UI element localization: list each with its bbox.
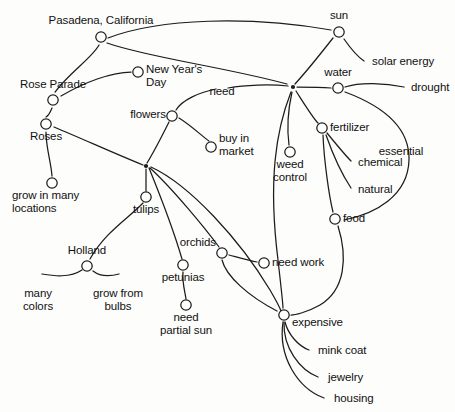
edge-water-to-hub-right xyxy=(297,87,331,88)
edge-orchids-to-expensive xyxy=(222,260,277,311)
node-marker-holland[interactable] xyxy=(82,261,92,271)
edge-orchids-to-needwork xyxy=(229,255,257,262)
edge-roses-to-hub-left xyxy=(54,127,143,165)
node-label-orchids[interactable]: orchids xyxy=(180,236,216,249)
node-marker-weedcontrol[interactable] xyxy=(285,147,295,157)
node-label-buymarket[interactable]: buy in market xyxy=(219,132,254,157)
node-marker-needwork[interactable] xyxy=(259,258,269,268)
node-label-chemical[interactable]: chemical xyxy=(358,156,403,169)
node-label-flowers[interactable]: flowers xyxy=(130,108,166,121)
edge-flowers-to-hub-left xyxy=(147,122,169,163)
edge-holland-to-growbulbs xyxy=(93,271,119,276)
node-label-tulips[interactable]: tulips xyxy=(133,203,159,216)
node-marker-flowers[interactable] xyxy=(167,111,177,121)
node-label-jewelry[interactable]: jewelry xyxy=(328,371,363,384)
node-marker-tulips[interactable] xyxy=(141,192,151,202)
node-label-roseparade[interactable]: Rose Parade xyxy=(20,78,86,91)
node-marker-roseparade[interactable] xyxy=(48,95,58,105)
edge-expensive-to-jewelry xyxy=(284,322,318,377)
node-label-expensive[interactable]: expensive xyxy=(292,316,343,329)
concept-map-canvas: Pasadena, Californiasunsolar energyNew Y… xyxy=(0,0,455,412)
node-marker-pasadena[interactable] xyxy=(96,32,106,42)
node-label-manycolors[interactable]: many colors xyxy=(23,287,53,312)
node-label-growmany[interactable]: grow in many locations xyxy=(12,189,79,214)
node-label-petunias[interactable]: petunias xyxy=(162,271,205,284)
node-label-natural[interactable]: natural xyxy=(358,183,392,196)
edge-food-to-expensive xyxy=(291,226,343,315)
node-label-growbulbs[interactable]: grow from bulbs xyxy=(93,287,143,312)
edge-fertilizer-to-natural xyxy=(326,135,351,188)
node-label-needwork[interactable]: need work xyxy=(272,256,324,269)
node-label-sun[interactable]: sun xyxy=(330,9,348,22)
node-marker-orchids[interactable] xyxy=(217,248,227,258)
node-label-drought[interactable]: drought xyxy=(411,81,449,94)
node-label-housing[interactable]: housing xyxy=(334,392,374,405)
edge-flowers-to-buymarket xyxy=(179,118,209,141)
node-marker-expensive[interactable] xyxy=(279,310,289,320)
node-label-water[interactable]: water xyxy=(324,66,352,79)
edge-hub-right-to-need xyxy=(228,85,288,88)
node-label-need[interactable]: need xyxy=(209,85,234,98)
node-label-solar[interactable]: solar energy xyxy=(372,55,434,68)
edge-sun-to-solar xyxy=(344,39,364,61)
node-marker-sun[interactable] xyxy=(334,27,344,37)
node-marker-petunias[interactable] xyxy=(178,260,188,270)
edge-holland-to-manycolors xyxy=(42,270,82,276)
edge-expensive-to-housing xyxy=(282,322,324,398)
node-marker-buymarket[interactable] xyxy=(206,142,216,152)
node-label-fertilizer[interactable]: fertilizer xyxy=(330,121,369,134)
node-label-roses[interactable]: Roses xyxy=(30,130,62,143)
edge-roseparade-to-roses xyxy=(46,108,52,117)
junction-hub-right xyxy=(291,85,295,89)
node-label-pasadena[interactable]: Pasadena, California xyxy=(49,14,154,27)
node-label-needsun[interactable]: need partial sun xyxy=(160,311,212,336)
node-marker-needsun[interactable] xyxy=(181,300,191,310)
edge-fertilizer-to-food xyxy=(323,135,333,212)
node-marker-newyear[interactable] xyxy=(133,67,143,77)
node-label-holland[interactable]: Holland xyxy=(68,244,106,257)
edge-water-to-drought xyxy=(345,84,404,87)
node-label-newyear[interactable]: New Year's Day xyxy=(146,63,202,88)
node-label-food[interactable]: food xyxy=(343,212,365,225)
node-label-minkcoat[interactable]: mink coat xyxy=(318,344,366,357)
node-label-weedcontrol[interactable]: weed control xyxy=(273,158,307,183)
node-marker-roses[interactable] xyxy=(41,119,51,129)
edge-hub-right-to-fertilizer xyxy=(296,91,318,123)
edge-group xyxy=(42,21,409,398)
node-marker-fertilizer[interactable] xyxy=(317,123,327,133)
node-marker-water[interactable] xyxy=(333,83,343,93)
node-marker-growmany[interactable] xyxy=(47,178,57,188)
node-marker-food[interactable] xyxy=(330,214,340,224)
junction-hub-left xyxy=(144,164,148,168)
